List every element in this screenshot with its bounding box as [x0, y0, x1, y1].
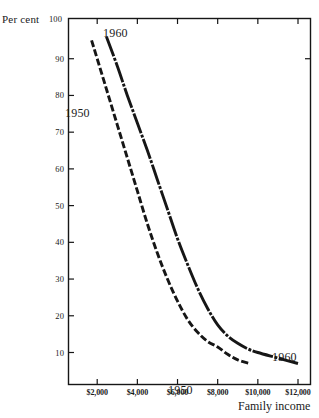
- axis-ticks: [69, 19, 311, 385]
- data-series: [92, 37, 298, 364]
- plot-area: [0, 0, 319, 418]
- plot-frame-rect: [69, 19, 311, 385]
- series-line-1960: [106, 37, 298, 364]
- plot-frame: [69, 19, 311, 385]
- chart-figure: Per cent Family income 10203040506070809…: [0, 0, 319, 418]
- series-line-1950: [92, 40, 250, 363]
